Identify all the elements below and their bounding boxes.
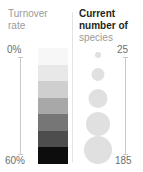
gradient-band — [38, 81, 68, 98]
species-title-line-3: species — [79, 32, 141, 44]
turnover-rate-gradient-bar — [38, 48, 68, 164]
gradient-band — [38, 147, 68, 164]
species-circle — [84, 136, 112, 164]
species-circle — [86, 112, 110, 136]
gradient-band — [38, 114, 68, 131]
gradient-band — [38, 131, 68, 148]
map-legend: Turnover rate 0% 60% Current number of s… — [0, 0, 143, 172]
species-circle — [92, 68, 105, 81]
species-axis-min-label: 25 — [117, 44, 128, 55]
species-count-title: Current number of species — [79, 8, 141, 44]
axis-cap-top — [123, 57, 128, 58]
species-title-line-2: number of — [79, 20, 141, 32]
turnover-title-line-1: Turnover — [8, 8, 68, 20]
species-count-circles — [82, 48, 114, 164]
turnover-rate-title: Turnover rate — [8, 8, 68, 32]
turnover-title-line-2: rate — [8, 20, 68, 32]
gradient-band — [38, 65, 68, 82]
species-title-line-1: Current — [79, 8, 141, 20]
turnover-axis-max-label: 60% — [5, 155, 25, 166]
species-axis-max-label: 185 — [115, 155, 132, 166]
axis-cap-top — [18, 57, 23, 58]
species-circle — [89, 89, 108, 108]
turnover-rate-axis-line — [20, 57, 21, 155]
gradient-band — [38, 98, 68, 115]
turnover-axis-min-label: 0% — [7, 44, 21, 55]
gradient-band — [38, 48, 68, 65]
species-circle — [95, 52, 101, 58]
species-count-axis-line — [125, 57, 126, 155]
panel-divider — [72, 12, 73, 162]
